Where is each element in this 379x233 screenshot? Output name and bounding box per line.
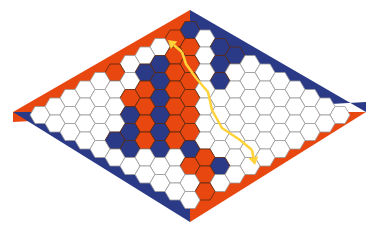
hex-cells <box>30 22 350 209</box>
hex-board <box>0 0 379 233</box>
